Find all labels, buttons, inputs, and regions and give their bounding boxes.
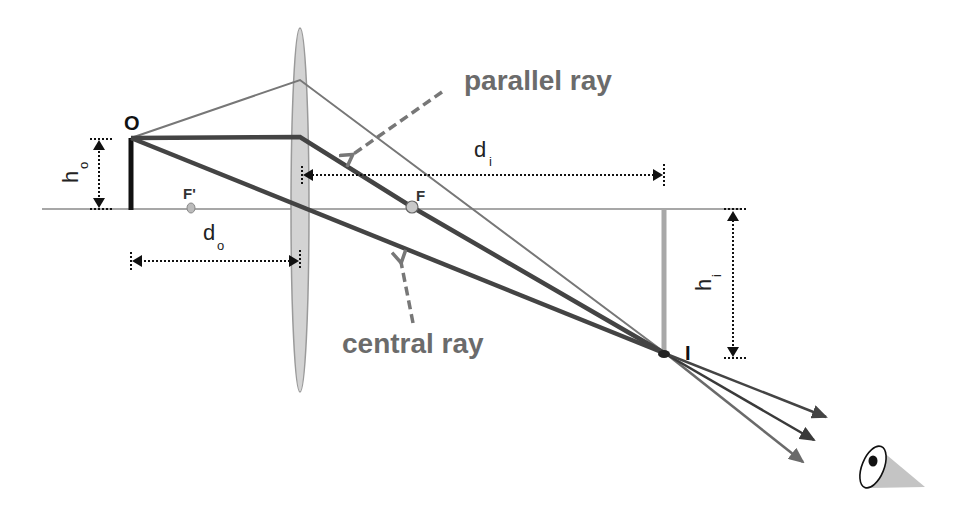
- image-height-dimension: [724, 209, 746, 358]
- eye-icon: [855, 442, 925, 491]
- object-height-dimension: [90, 139, 112, 209]
- image-label: I: [685, 342, 691, 364]
- object-height-symbol: h: [58, 171, 83, 183]
- central-ray-annotation: central ray: [342, 328, 484, 359]
- object-distance-dimension: [131, 250, 300, 270]
- focal-point-near: [187, 203, 195, 213]
- parallel-ray-exit: [664, 353, 814, 440]
- lens-ray-diagram: O F' F I h o h i d o d i parallel ray ce…: [0, 0, 961, 508]
- parallel-ray-annotation: parallel ray: [464, 65, 612, 96]
- image-distance-symbol: d: [474, 137, 486, 162]
- object-distance-symbol: d: [203, 220, 215, 245]
- central-ray: [131, 138, 664, 353]
- parallel-ray-pointer: [352, 92, 442, 155]
- image-distance-subscript: i: [489, 154, 492, 169]
- object-height-subscript: o: [76, 162, 91, 169]
- image-distance-dimension: [302, 164, 664, 186]
- image-height-symbol: h: [691, 279, 716, 291]
- image-point: [658, 350, 670, 358]
- object-distance-subscript: o: [217, 238, 224, 253]
- image-height-subscript: i: [709, 274, 724, 277]
- thin-ray: [131, 80, 664, 352]
- central-ray-pointer: [401, 262, 413, 323]
- object-label: O: [124, 112, 140, 134]
- focal-near-label: F': [183, 185, 196, 202]
- focal-far-label: F: [416, 187, 425, 204]
- thin-ray-exit: [664, 352, 803, 462]
